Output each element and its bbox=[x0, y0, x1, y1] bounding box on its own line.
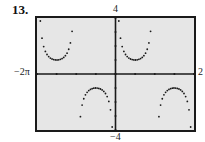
graph-plot bbox=[0, 0, 205, 142]
